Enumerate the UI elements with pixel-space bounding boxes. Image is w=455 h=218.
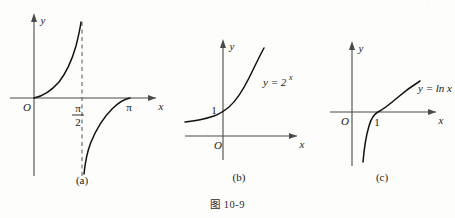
y-axis-label-b: y <box>229 40 235 52</box>
chart-panel-b: O 1 y = 2 x x y (b) <box>181 26 316 186</box>
figure-caption: 图 10-9 <box>0 196 455 211</box>
x-axis-arrow-a <box>148 95 156 101</box>
curve-exponential-2x <box>185 48 264 122</box>
y-axis-arrow-a <box>31 13 37 22</box>
chart-b-svg: O 1 y = 2 x x y (b) <box>181 26 316 186</box>
ytick-label-one-b: 1 <box>211 104 217 116</box>
y-axis-label-c: y <box>358 42 364 54</box>
curve-tan-branch-2 <box>84 98 130 174</box>
chart-panel-a: O π 2 π x y (a) <box>4 4 172 186</box>
curve-logarithm-lnx <box>363 81 420 162</box>
chart-a-svg: O π 2 π x y (a) <box>4 4 172 186</box>
x-axis-arrow-c <box>428 109 436 115</box>
panel-label-b: (b) <box>233 171 246 184</box>
figure-10-9: O π 2 π x y (a) <box>0 0 455 218</box>
origin-label-c: O <box>341 115 349 127</box>
curve-label-b-exponent: x <box>288 73 293 82</box>
curve-label-c: y = ln x <box>417 82 452 94</box>
y-axis-arrow-c <box>349 41 355 50</box>
chart-c-svg: O 1 y = ln x x y (c) <box>324 26 454 186</box>
xtick-label-pi: π <box>126 101 132 113</box>
x-axis-arrow-b <box>289 133 297 139</box>
origin-label-a: O <box>23 101 31 113</box>
curve-tan-branch-1 <box>34 22 81 98</box>
panel-label-a: (a) <box>76 174 89 187</box>
curve-label-b-base: y = 2 <box>262 76 287 88</box>
x-axis-label-b: x <box>299 138 305 150</box>
origin-label-b: O <box>214 139 222 151</box>
y-axis-label-a: y <box>40 14 46 26</box>
xtick-label-one-c: 1 <box>374 116 380 128</box>
x-axis-label-c: x <box>438 114 444 126</box>
fraction-denominator-2: 2 <box>75 116 81 128</box>
fraction-numerator-pi: π <box>75 102 81 114</box>
chart-panel-c: O 1 y = ln x x y (c) <box>324 26 454 186</box>
y-axis-arrow-b <box>220 39 226 48</box>
curve-label-b: y = 2 x <box>262 73 293 88</box>
x-axis-label-a: x <box>158 100 164 112</box>
panel-label-c: (c) <box>376 171 389 184</box>
